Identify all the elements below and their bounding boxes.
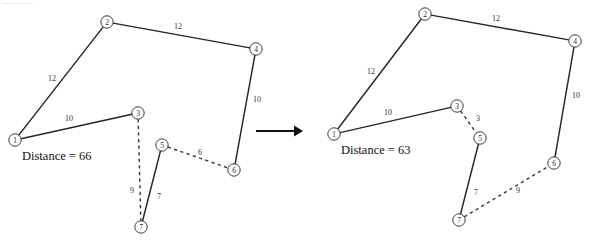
- edge-before-4-6: [235, 55, 255, 164]
- edge-weight-before-1-2: 12: [48, 74, 56, 83]
- distance-label-after: Distance = 63: [341, 143, 411, 157]
- edge-after-5-7: [461, 144, 479, 214]
- edge-after-1-3: [340, 107, 451, 132]
- distance-label-before: Distance = 66: [22, 149, 92, 163]
- node-label-before-7: 7: [139, 223, 143, 232]
- edge-before-5-7: [143, 151, 161, 221]
- node-label-before-5: 5: [160, 141, 164, 150]
- edge-weight-after-2-4: 12: [492, 14, 500, 23]
- node-label-after-3: 3: [455, 102, 459, 111]
- edge-weight-before-5-7: 7: [157, 192, 161, 201]
- transform-arrow: [256, 125, 303, 136]
- node-label-before-4: 4: [254, 45, 258, 54]
- node-label-after-5: 5: [478, 134, 482, 143]
- edge-weight-after-1-3: 10: [384, 108, 392, 117]
- node-label-after-2: 2: [423, 10, 427, 19]
- node-label-after-4: 4: [573, 37, 577, 46]
- edge-weight-after-1-2: 12: [367, 67, 375, 76]
- right-graph-panel: 121210107391234567Distance = 63: [328, 8, 581, 226]
- edge-after-4-6: [555, 47, 574, 157]
- edge-weight-after-4-6: 10: [572, 91, 580, 100]
- edge-weight-before-2-4: 12: [174, 22, 182, 31]
- node-label-after-6: 6: [552, 159, 556, 168]
- edge-weight-after-3-5: 3: [476, 114, 480, 123]
- node-label-before-1: 1: [13, 136, 17, 145]
- edge-after-2-4: [431, 15, 569, 40]
- edge-weight-after-5-7: 7: [474, 188, 478, 197]
- edge-weight-before-3-7: 9: [130, 186, 134, 195]
- edge-before-3-7: [138, 119, 141, 221]
- edge-after-1-2: [338, 19, 422, 129]
- node-label-after-1: 1: [332, 130, 336, 139]
- graph-comparison-figure: — —— — 121210107961234567Distance = 6612…: [0, 0, 591, 242]
- arrow-head: [294, 125, 303, 136]
- edge-weight-before-5-6: 6: [198, 148, 202, 157]
- edge-before-1-2: [19, 27, 103, 135]
- edge-weight-before-4-6: 10: [253, 95, 261, 104]
- node-label-before-2: 2: [105, 18, 109, 27]
- edge-after-3-5: [461, 111, 477, 133]
- node-label-before-3: 3: [136, 109, 140, 118]
- left-graph-panel: 121210107961234567Distance = 66: [9, 16, 262, 233]
- diagram-canvas: 121210107961234567Distance = 66121210107…: [0, 0, 591, 242]
- edge-weight-after-7-6: 9: [516, 186, 520, 195]
- edge-weight-before-1-3: 10: [65, 114, 73, 123]
- edge-before-1-3: [21, 114, 132, 138]
- node-label-before-6: 6: [232, 166, 236, 175]
- node-label-after-7: 7: [457, 216, 461, 225]
